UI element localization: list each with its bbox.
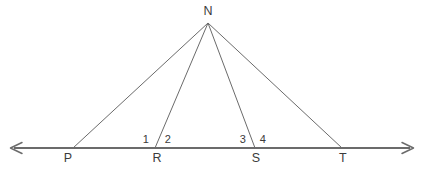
angle-label-3: 3 xyxy=(240,133,246,145)
vertex-label-T: T xyxy=(339,152,347,164)
vertex-label-S: S xyxy=(252,152,261,164)
segment-NR xyxy=(155,23,208,148)
geometry-figure: N P R S T 1 2 3 4 xyxy=(0,0,424,174)
angle-label-1: 1 xyxy=(143,133,149,145)
triangle-segments xyxy=(73,23,342,148)
segment-NS xyxy=(208,23,255,148)
vertex-label-N: N xyxy=(203,5,212,17)
angle-label-4: 4 xyxy=(260,133,266,145)
segment-NP xyxy=(73,23,208,148)
vertex-label-P: P xyxy=(64,152,73,164)
geometry-canvas xyxy=(0,0,424,174)
angle-label-2: 2 xyxy=(165,133,171,145)
vertex-label-R: R xyxy=(152,152,161,164)
segment-NT xyxy=(208,23,342,148)
